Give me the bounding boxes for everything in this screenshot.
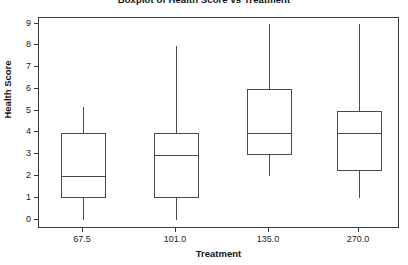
x-axis-label: Treatment bbox=[38, 248, 399, 259]
y-tick-label: 9 bbox=[26, 17, 31, 29]
lower-whisker bbox=[359, 171, 360, 198]
x-tick-label: 270.0 bbox=[328, 234, 388, 244]
y-tick-label: 3 bbox=[26, 147, 31, 159]
y-tick-mark bbox=[34, 197, 38, 198]
median-line bbox=[61, 176, 106, 177]
x-tick-mark bbox=[358, 228, 359, 232]
lower-whisker bbox=[83, 198, 84, 220]
plot-area bbox=[38, 17, 399, 228]
y-tick-label: 0 bbox=[26, 213, 31, 225]
iqr-box bbox=[247, 89, 292, 154]
chart-title: Boxplot of Health Score vs Treatment bbox=[0, 0, 408, 5]
y-tick-label: 2 bbox=[26, 169, 31, 181]
y-tick-mark bbox=[34, 44, 38, 45]
y-tick-label: 7 bbox=[26, 60, 31, 72]
boxplot-figure: Boxplot of Health Score vs Treatment Hea… bbox=[0, 0, 408, 265]
lower-whisker bbox=[269, 155, 270, 177]
y-axis-label: Health Score bbox=[2, 50, 13, 130]
upper-whisker bbox=[359, 24, 360, 111]
upper-whisker bbox=[269, 24, 270, 89]
iqr-box bbox=[154, 133, 199, 198]
x-tick-label: 135.0 bbox=[238, 234, 298, 244]
y-tick-label: 5 bbox=[26, 104, 31, 116]
y-tick-mark bbox=[34, 66, 38, 67]
y-tick-label: 6 bbox=[26, 82, 31, 94]
y-tick-label: 8 bbox=[26, 38, 31, 50]
plot-inner bbox=[39, 18, 398, 227]
y-tick-mark bbox=[34, 131, 38, 132]
y-tick-mark bbox=[34, 175, 38, 176]
x-tick-label: 67.5 bbox=[52, 234, 112, 244]
x-tick-label: 101.0 bbox=[145, 234, 205, 244]
median-line bbox=[154, 155, 199, 156]
y-tick-label: 1 bbox=[26, 191, 31, 203]
y-tick-mark bbox=[34, 23, 38, 24]
y-tick-mark bbox=[34, 110, 38, 111]
iqr-box bbox=[61, 133, 106, 198]
median-line bbox=[337, 133, 382, 134]
lower-whisker bbox=[176, 198, 177, 220]
upper-whisker bbox=[83, 107, 84, 133]
x-tick-mark bbox=[175, 228, 176, 232]
iqr-box bbox=[337, 111, 382, 171]
x-tick-mark bbox=[82, 228, 83, 232]
y-tick-mark bbox=[34, 88, 38, 89]
y-tick-label: 4 bbox=[26, 125, 31, 137]
y-tick-mark bbox=[34, 153, 38, 154]
upper-whisker bbox=[176, 46, 177, 133]
y-tick-mark bbox=[34, 219, 38, 220]
x-tick-mark bbox=[268, 228, 269, 232]
median-line bbox=[247, 133, 292, 134]
